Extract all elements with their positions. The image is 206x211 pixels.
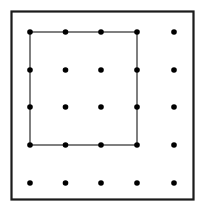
lattice-dot <box>134 180 140 186</box>
lattice-dot <box>98 142 104 148</box>
lattice-dot <box>134 142 140 148</box>
lattice-dot <box>98 104 104 110</box>
lattice-dot <box>171 29 177 35</box>
lattice-dot <box>98 29 104 35</box>
lattice-dot <box>63 180 69 186</box>
lattice-dot <box>63 142 69 148</box>
lattice-dot <box>98 180 104 186</box>
lattice-dot <box>63 29 69 35</box>
lattice-dot <box>134 104 140 110</box>
lattice-dot <box>171 67 177 73</box>
lattice-dot <box>134 29 140 35</box>
lattice-dot <box>171 180 177 186</box>
lattice-dot <box>63 104 69 110</box>
figure-container <box>0 0 206 211</box>
lattice-dot <box>98 67 104 73</box>
lattice-dot <box>134 67 140 73</box>
lattice-dot <box>27 104 33 110</box>
lattice-dot <box>27 67 33 73</box>
lattice-dot <box>27 29 33 35</box>
lattice-dot <box>63 67 69 73</box>
lattice-dot <box>27 180 33 186</box>
lattice-dot <box>171 142 177 148</box>
dot-grid-figure <box>0 0 206 211</box>
lattice-dot <box>171 104 177 110</box>
lattice-dot <box>27 142 33 148</box>
